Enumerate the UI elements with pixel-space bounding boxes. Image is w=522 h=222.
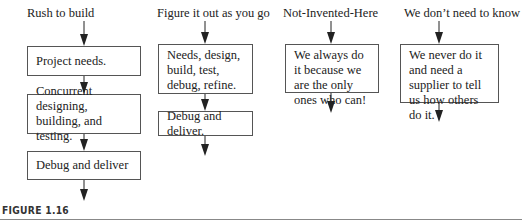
- figure-caption: FIGURE 1.16: [2, 205, 69, 216]
- down-arrow-icon: [327, 93, 335, 113]
- down-arrow-icon: [80, 76, 88, 94]
- down-arrow-icon: [201, 136, 209, 156]
- down-arrow-icon: [201, 21, 209, 44]
- down-arrow-icon: [80, 21, 88, 46]
- down-arrow-icon: [80, 180, 88, 201]
- down-arrow-icon: [435, 21, 443, 44]
- caption-rule: [0, 219, 522, 220]
- down-arrow-icon: [327, 21, 335, 44]
- down-arrow-icon: [80, 134, 88, 151]
- down-arrow-icon: [435, 103, 443, 122]
- down-arrow-icon: [201, 94, 209, 111]
- flow-arrows: [0, 0, 522, 222]
